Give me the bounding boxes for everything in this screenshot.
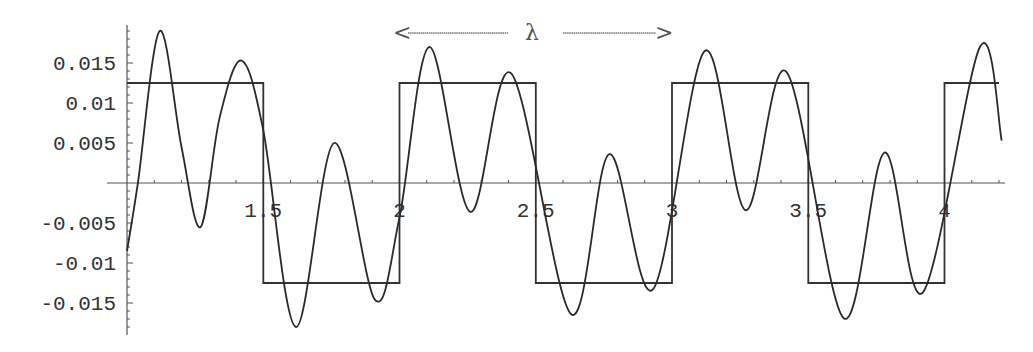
y-tick-label: 0.01: [66, 93, 116, 116]
wavelength-annotation: < λ >: [393, 20, 673, 45]
y-tick-label: -0.005: [40, 213, 116, 236]
y-tick-label: 0.015: [53, 53, 116, 76]
y-tick-label: 0.005: [53, 133, 116, 156]
y-tick-label: -0.015: [40, 293, 116, 316]
axes: [107, 25, 1005, 335]
chart-plot: 1.522.533.540.0150.010.005-0.005-0.01-0.…: [0, 0, 1033, 352]
arrow-right-head: >: [655, 20, 673, 45]
lambda-symbol: λ: [525, 20, 539, 45]
tick-labels: 1.522.533.540.0150.010.005-0.005-0.01-0.…: [40, 53, 950, 316]
y-tick-label: -0.01: [53, 253, 116, 276]
